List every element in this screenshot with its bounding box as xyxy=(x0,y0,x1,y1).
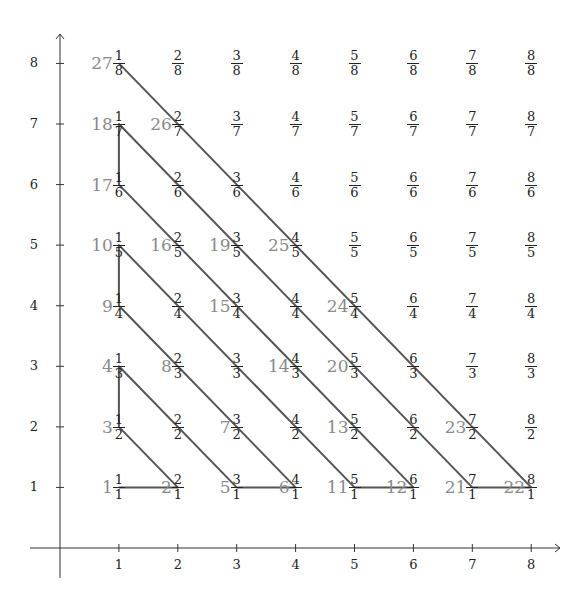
numerator: 6 xyxy=(406,111,420,123)
denominator: 5 xyxy=(465,247,479,259)
fraction-8-4: 84 xyxy=(524,293,538,320)
x-tick-label: 4 xyxy=(286,558,306,572)
fraction-2-8: 28 xyxy=(171,50,185,77)
denominator: 2 xyxy=(230,429,244,441)
denominator: 6 xyxy=(171,187,185,199)
y-tick-label: 4 xyxy=(24,299,44,313)
index-label: 24 xyxy=(309,296,349,316)
numerator: 1 xyxy=(112,293,126,305)
y-tick-label: 8 xyxy=(24,56,44,70)
index-label: 6 xyxy=(250,477,290,497)
denominator: 5 xyxy=(230,247,244,259)
denominator: 8 xyxy=(524,65,538,77)
fraction-6-8: 68 xyxy=(406,50,420,77)
denominator: 6 xyxy=(524,187,538,199)
numerator: 5 xyxy=(348,414,362,426)
denominator: 1 xyxy=(348,489,362,501)
denominator: 7 xyxy=(112,126,126,138)
numerator: 2 xyxy=(171,111,185,123)
fraction-3-3: 33 xyxy=(230,353,244,380)
index-label: 1 xyxy=(73,477,113,497)
fraction-1-2: 12 xyxy=(112,414,126,441)
index-label: 17 xyxy=(73,175,113,195)
numerator: 1 xyxy=(112,353,126,365)
fraction-4-7: 47 xyxy=(289,111,303,138)
fraction-7-7: 77 xyxy=(465,111,479,138)
denominator: 3 xyxy=(406,368,420,380)
denominator: 6 xyxy=(112,187,126,199)
fraction-7-3: 73 xyxy=(465,353,479,380)
fraction-8-2: 82 xyxy=(524,414,538,441)
numerator: 2 xyxy=(171,293,185,305)
index-label: 3 xyxy=(73,417,113,437)
numerator: 3 xyxy=(230,172,244,184)
index-label: 11 xyxy=(309,477,349,497)
fraction-3-7: 37 xyxy=(230,111,244,138)
fraction-7-2: 72 xyxy=(465,414,479,441)
index-label: 13 xyxy=(309,417,349,437)
numerator: 5 xyxy=(348,232,362,244)
fraction-8-8: 88 xyxy=(524,50,538,77)
index-label: 25 xyxy=(250,235,290,255)
fraction-5-2: 52 xyxy=(348,414,362,441)
fraction-1-4: 14 xyxy=(112,293,126,320)
numerator: 4 xyxy=(289,50,303,62)
numerator: 3 xyxy=(230,353,244,365)
denominator: 7 xyxy=(289,126,303,138)
numerator: 2 xyxy=(171,50,185,62)
numerator: 1 xyxy=(112,414,126,426)
denominator: 8 xyxy=(289,65,303,77)
fraction-1-6: 16 xyxy=(112,172,126,199)
denominator: 1 xyxy=(289,489,303,501)
fraction-6-1: 61 xyxy=(406,474,420,501)
index-label: 27 xyxy=(73,53,113,73)
denominator: 7 xyxy=(230,126,244,138)
fraction-5-4: 54 xyxy=(348,293,362,320)
x-tick-label: 3 xyxy=(227,558,247,572)
denominator: 3 xyxy=(465,368,479,380)
denominator: 4 xyxy=(112,308,126,320)
fraction-5-3: 53 xyxy=(348,353,362,380)
denominator: 5 xyxy=(289,247,303,259)
numerator: 6 xyxy=(406,293,420,305)
fraction-7-4: 74 xyxy=(465,293,479,320)
numerator: 8 xyxy=(524,50,538,62)
denominator: 3 xyxy=(230,368,244,380)
numerator: 6 xyxy=(406,50,420,62)
index-label: 19 xyxy=(191,235,231,255)
fraction-4-1: 41 xyxy=(289,474,303,501)
fraction-2-4: 24 xyxy=(171,293,185,320)
denominator: 4 xyxy=(171,308,185,320)
fraction-5-1: 51 xyxy=(348,474,362,501)
numerator: 8 xyxy=(524,474,538,486)
fraction-8-1: 81 xyxy=(524,474,538,501)
fraction-6-2: 62 xyxy=(406,414,420,441)
denominator: 5 xyxy=(524,247,538,259)
numerator: 8 xyxy=(524,293,538,305)
fraction-8-6: 86 xyxy=(524,172,538,199)
denominator: 8 xyxy=(406,65,420,77)
denominator: 1 xyxy=(524,489,538,501)
fraction-4-4: 44 xyxy=(289,293,303,320)
denominator: 8 xyxy=(465,65,479,77)
numerator: 1 xyxy=(112,172,126,184)
fraction-5-7: 57 xyxy=(348,111,362,138)
denominator: 7 xyxy=(348,126,362,138)
index-label: 10 xyxy=(73,235,113,255)
index-label: 15 xyxy=(191,296,231,316)
numerator: 2 xyxy=(171,353,185,365)
fraction-3-5: 35 xyxy=(230,232,244,259)
numerator: 2 xyxy=(171,474,185,486)
denominator: 3 xyxy=(289,368,303,380)
index-label: 5 xyxy=(191,477,231,497)
denominator: 6 xyxy=(289,187,303,199)
denominator: 4 xyxy=(524,308,538,320)
numerator: 4 xyxy=(289,232,303,244)
denominator: 1 xyxy=(406,489,420,501)
fraction-7-5: 75 xyxy=(465,232,479,259)
fraction-3-1: 31 xyxy=(230,474,244,501)
denominator: 2 xyxy=(112,429,126,441)
x-tick-label: 7 xyxy=(462,558,482,572)
numerator: 4 xyxy=(289,293,303,305)
fraction-4-2: 42 xyxy=(289,414,303,441)
